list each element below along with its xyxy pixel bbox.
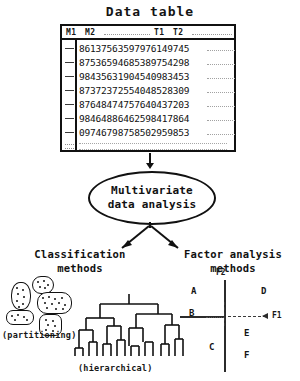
point-label-c: C — [209, 342, 214, 352]
dendrogram-figure — [74, 292, 184, 362]
axis-f1-line — [228, 316, 266, 318]
factor-analysis-plot: F2 F1 A B C D E F — [176, 272, 300, 376]
row-label — [65, 90, 74, 91]
point-label-e: E — [244, 328, 249, 338]
row-tail-dots — [207, 134, 235, 136]
row-tail-dots — [207, 64, 235, 66]
row-label — [65, 48, 74, 49]
branch-title-classification: Classification methods — [20, 248, 140, 275]
column-header-m2: M2 — [85, 28, 96, 37]
row-label — [65, 118, 74, 119]
column-header-t1: T1 — [154, 28, 165, 37]
row-tail-dots — [207, 50, 235, 52]
point-label-b: B — [189, 308, 194, 318]
cluster-blob — [6, 310, 34, 325]
process-node-multivariate-analysis: Multivariate data analysis — [88, 171, 216, 225]
row-tail-dots — [207, 106, 235, 108]
row-label-column — [62, 40, 77, 150]
table-body: 86137563597976149745 8753659468538975429… — [79, 40, 233, 150]
hierarchical-label: (hierarchical) — [78, 363, 152, 373]
page-title: Data table — [0, 4, 300, 19]
table-row: 98464886462598417864 — [79, 113, 189, 124]
axis-label-f2: F2 — [216, 268, 226, 277]
process-label-line1: Multivariate — [111, 184, 193, 198]
row-label — [65, 62, 74, 63]
table-row: 98435631904540983453 — [79, 71, 189, 82]
axis-f2-line — [224, 280, 226, 372]
axis-label-f1: F1 — [272, 311, 282, 320]
point-label-a: A — [191, 286, 196, 296]
table-row: 87536594685389754298 — [79, 57, 189, 68]
classification-title-line2: methods — [20, 262, 140, 276]
axis-dots-vertical — [224, 302, 226, 326]
header-dots-left — [104, 34, 150, 36]
column-header-m1: M1 — [66, 28, 77, 37]
table-row: 86137563597976149745 — [79, 43, 189, 54]
factor-title-line1: Factor analysis — [172, 248, 294, 262]
row-label — [65, 104, 74, 105]
row-label-ellipsis — [65, 148, 74, 150]
table-row: 09746798758502959853 — [79, 127, 189, 138]
point-label-f: F — [244, 350, 249, 360]
axis-dots-horizontal — [206, 317, 224, 319]
partitioning-figure — [0, 276, 80, 332]
table-row: 87648474757640437203 — [79, 99, 189, 110]
row-tail-dots — [207, 78, 235, 80]
table-row-placeholder — [79, 143, 227, 145]
data-table: M1 M2 T1 T2 86137563597976149745 8753659… — [60, 24, 236, 152]
row-label — [65, 76, 74, 77]
cluster-blob — [37, 292, 72, 314]
row-tail-dots — [207, 92, 235, 94]
classification-title-line1: Classification — [20, 248, 140, 262]
header-dots-right — [192, 34, 232, 36]
process-label-line2: data analysis — [108, 198, 197, 212]
flow-arrow-head — [146, 163, 154, 169]
table-header-row: M1 M2 T1 T2 — [62, 26, 234, 40]
table-row-placeholder — [79, 149, 227, 151]
row-label-ellipsis — [65, 144, 74, 146]
point-label-d: D — [261, 286, 266, 296]
cluster-blob — [11, 282, 31, 310]
partitioning-label: (partitioning) — [2, 330, 76, 340]
row-tail-dots — [207, 120, 235, 122]
row-label — [65, 132, 74, 133]
diagram-canvas: Data table M1 M2 T1 T2 86137563597976149… — [0, 0, 300, 381]
axis-f1-arrow — [262, 313, 268, 319]
table-row: 87372372554048528309 — [79, 85, 189, 96]
column-header-t2: T2 — [173, 28, 184, 37]
